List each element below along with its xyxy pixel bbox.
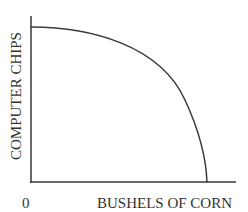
ppf-curve bbox=[31, 27, 207, 182]
x-axis-label: BUSHELS OF CORN bbox=[97, 195, 232, 211]
y-axis-label: COMPUTER CHIPS bbox=[8, 32, 24, 160]
ppf-diagram: 0 BUSHELS OF CORN COMPUTER CHIPS bbox=[0, 0, 248, 212]
origin-label: 0 bbox=[22, 195, 30, 211]
